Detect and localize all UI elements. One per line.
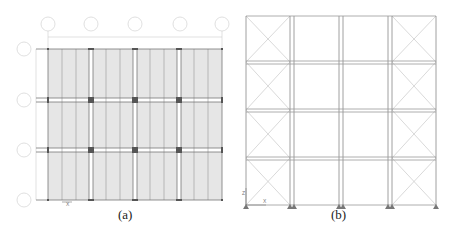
axis-x-label: X bbox=[263, 198, 267, 204]
grid-bubbles-top bbox=[41, 17, 229, 31]
elevation-view-panel: Z X (b) bbox=[230, 0, 451, 234]
frame-beams bbox=[246, 16, 436, 205]
caption-a: (a) bbox=[118, 207, 132, 223]
grid-bubbles-left bbox=[17, 42, 31, 207]
frame-columns bbox=[246, 16, 436, 205]
caption-b: (b) bbox=[331, 207, 346, 223]
x-bracing bbox=[246, 16, 436, 205]
frame-elevation-drawing: Z X bbox=[230, 0, 451, 234]
floor-plan-drawing: X bbox=[0, 0, 230, 234]
axis-z-label: Z bbox=[242, 190, 245, 196]
plan-view-panel: X (a) bbox=[0, 0, 230, 234]
